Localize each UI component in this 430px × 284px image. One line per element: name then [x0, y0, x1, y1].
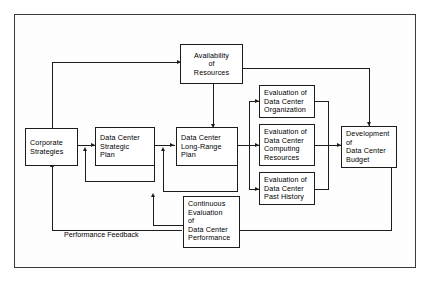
arrowhead-into-strategic-plan-right	[161, 147, 165, 151]
node-continuous-evaluation-of-data-center-performance[interactable]: Continuous Evaluation of Data Center Per…	[183, 196, 240, 248]
edge-continuous-to-longrange-horizontal	[153, 225, 183, 226]
node-evaluation-data-center-computing-resources[interactable]: Evaluation of Data Center Computing Reso…	[259, 124, 315, 166]
edge-corporate-to-availability-vertical	[52, 62, 53, 128]
edge-longrange-loop-horizontal	[163, 191, 238, 192]
edge-corporate-to-availability-horizontal	[52, 62, 181, 63]
edge-performance-feedback-vertical	[52, 166, 53, 230]
arrowhead-into-longrange-left	[170, 143, 174, 147]
edge-eval-organization-to-bus	[315, 101, 329, 102]
arrowhead-into-corporate-strategies-right	[83, 147, 87, 151]
edge-longrange-loop-return-vertical	[163, 150, 164, 191]
label-performance-feedback: Performance Feedback	[62, 231, 141, 239]
diagram-canvas: Availability of Resources Corporate Stra…	[0, 0, 430, 284]
edge-strategic-loop-horizontal	[85, 181, 154, 182]
edge-eval-history-to-bus	[315, 189, 329, 190]
edge-continuous-to-longrange-vertical	[153, 196, 154, 226]
edge-availability-to-development-horizontal	[243, 68, 370, 69]
arrowhead-into-longrange-bottom-feedback	[151, 193, 155, 197]
edge-strategic-loop-return-vertical	[85, 150, 86, 181]
node-availability-of-resources[interactable]: Availability of Resources	[180, 44, 243, 84]
node-evaluation-data-center-past-history[interactable]: Evaluation of Data Center Past History	[259, 172, 315, 205]
edge-availability-to-development-vertical	[369, 68, 370, 126]
node-data-center-long-range-plan[interactable]: Data Center Long-Range Plan	[176, 127, 238, 166]
node-evaluation-data-center-organization[interactable]: Evaluation of Data Center Organization	[259, 85, 315, 118]
node-corporate-strategies[interactable]: Corporate Strategies	[25, 128, 78, 166]
edge-development-to-continuous-vertical	[391, 163, 392, 231]
edge-development-to-continuous-horizontal	[240, 230, 391, 231]
node-development-of-data-center-budget[interactable]: Development of Data Center Budget	[341, 126, 397, 168]
node-data-center-strategic-plan[interactable]: Data Center Strategic Plan	[95, 127, 155, 166]
edge-availability-to-longrange-vertical	[213, 84, 214, 128]
